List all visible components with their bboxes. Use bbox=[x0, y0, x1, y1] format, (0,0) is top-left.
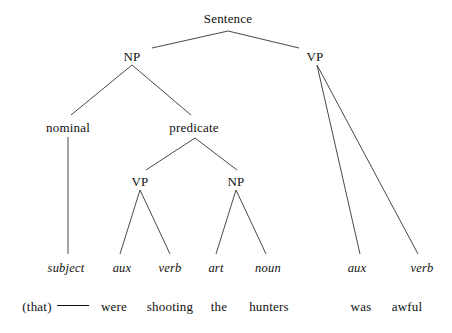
node-label-predicate: predicate bbox=[169, 121, 218, 134]
node-label-nominal: nominal bbox=[46, 121, 90, 134]
terminal-label-aux-1: aux bbox=[113, 262, 132, 275]
blank-slot bbox=[57, 305, 89, 306]
np-to-nominal bbox=[71, 65, 132, 115]
word-label-hunters-4: hunters bbox=[249, 300, 289, 313]
np-inner-to-noun bbox=[236, 190, 266, 254]
blank-underline bbox=[57, 305, 89, 306]
np-inner-to-art bbox=[216, 190, 236, 254]
terminal-label-verb-6: verb bbox=[410, 262, 433, 275]
vp-main-to-aux bbox=[317, 65, 360, 254]
node-label-np-subject: NP bbox=[123, 50, 140, 63]
sentence-to-np bbox=[152, 31, 228, 48]
syntax-tree-diagram: SentenceNPVPnominalpredicateVPNPsubjecta… bbox=[0, 0, 452, 333]
predicate-to-vp bbox=[146, 138, 195, 170]
predicate-to-np bbox=[195, 138, 237, 170]
word-label-that-0: (that) bbox=[22, 300, 51, 313]
terminal-label-subject-0: subject bbox=[48, 262, 85, 275]
np-to-predicate bbox=[132, 65, 191, 115]
vp-main-to-verb bbox=[317, 65, 418, 254]
terminal-label-verb-2: verb bbox=[158, 262, 181, 275]
terminal-label-aux-5: aux bbox=[348, 262, 367, 275]
word-label-were-1: were bbox=[101, 300, 127, 313]
vp-inner-to-verb bbox=[140, 190, 170, 254]
word-label-awful-6: awful bbox=[392, 300, 423, 313]
node-label-vp-inner: VP bbox=[131, 175, 148, 188]
vp-inner-to-aux bbox=[120, 190, 140, 254]
node-label-vp-main: VP bbox=[306, 50, 323, 63]
word-label-shooting-2: shooting bbox=[147, 300, 193, 313]
node-label-root: Sentence bbox=[204, 12, 253, 25]
terminal-label-noun-4: noun bbox=[255, 262, 281, 275]
sentence-to-vp bbox=[228, 31, 299, 48]
tree-edges bbox=[0, 0, 452, 333]
word-label-the-3: the bbox=[211, 300, 227, 313]
word-label-was-5: was bbox=[351, 300, 372, 313]
node-label-np-inner: NP bbox=[227, 175, 244, 188]
terminal-label-art-3: art bbox=[208, 262, 223, 275]
